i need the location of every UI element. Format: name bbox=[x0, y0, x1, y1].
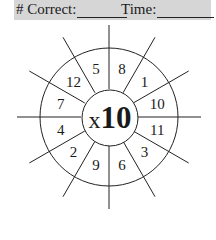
operator-symbol: x bbox=[89, 107, 101, 133]
wheel-number: 11 bbox=[150, 122, 164, 137]
wheel-number: 9 bbox=[92, 158, 100, 173]
wheel-number: 10 bbox=[150, 97, 165, 112]
wheel-number: 6 bbox=[118, 158, 126, 173]
factor-value: 10 bbox=[101, 100, 132, 135]
spoke-line bbox=[63, 141, 95, 197]
wheel-number: 12 bbox=[66, 74, 81, 89]
wheel-number: 2 bbox=[70, 145, 78, 160]
wheel-number: 7 bbox=[57, 97, 65, 112]
wheel-number: 1 bbox=[141, 74, 149, 89]
spoke-line bbox=[123, 141, 155, 197]
center-multiplier: x10 bbox=[89, 100, 132, 136]
spoke-line bbox=[123, 37, 155, 93]
wheel-number: 8 bbox=[118, 61, 126, 76]
wheel-number: 5 bbox=[92, 61, 100, 76]
wheel-number: 3 bbox=[141, 145, 149, 160]
wheel-number: 4 bbox=[57, 122, 65, 137]
